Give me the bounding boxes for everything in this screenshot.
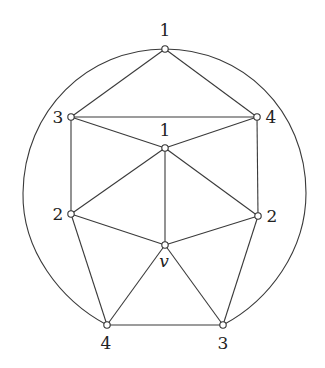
vertex-B4 [104,322,110,328]
vertex-L3 [68,114,74,120]
vertex-label-R2: 2 [267,206,278,226]
vertex-label-B4: 4 [101,333,112,353]
edge-v-B4 [107,245,165,325]
vertex-label-top: 1 [160,20,171,40]
vertex-label-R4: 4 [266,107,277,127]
edge-L2-B4 [71,214,107,325]
edge-v-B3 [165,245,223,325]
graph-diagram: 134122v43 [0,0,325,368]
vertex-label-L3: 3 [53,107,64,127]
vertex-R4 [254,114,260,120]
edge-top-L3 [71,49,165,117]
vertex-v [162,242,168,248]
vertex-label-L2: 2 [53,204,64,224]
edges-group [71,49,258,325]
edge-L2-v [71,214,165,245]
vertex-label-v: v [159,251,169,271]
vertex-label-mid1: 1 [160,120,171,140]
graph-svg: 134122v43 [0,0,325,368]
edge-R4-mid1 [165,117,257,148]
vertex-B3 [220,322,226,328]
vertex-L2 [68,211,74,217]
vertex-label-B3: 3 [218,333,229,353]
edge-mid1-L2 [71,148,165,214]
edge-R4-R2 [257,117,258,216]
vertex-mid1 [162,145,168,151]
edge-top-R4 [165,49,257,117]
vertex-top [162,46,168,52]
edge-R2-B3 [223,216,258,325]
edge-L3-mid1 [71,117,165,148]
edge-mid1-R2 [165,148,258,216]
edge-R2-v [165,216,258,245]
vertex-R2 [255,213,261,219]
